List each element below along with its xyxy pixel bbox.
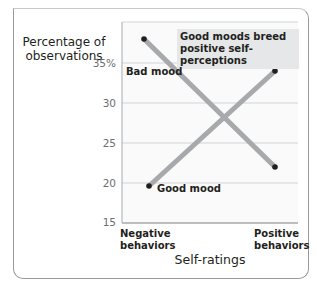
y-tick-25: 25 bbox=[86, 137, 116, 149]
x-category-negative: Negative behaviors bbox=[120, 228, 176, 252]
x-category-negative-line2: behaviors bbox=[120, 240, 176, 252]
x-category-positive-line2: behaviors bbox=[254, 240, 299, 252]
x-category-positive: Positive behaviors bbox=[254, 228, 299, 252]
marker-bad-mood-positive bbox=[272, 164, 278, 170]
marker-good-mood-negative bbox=[146, 183, 152, 189]
x-axis-label: Self-ratings bbox=[122, 252, 298, 267]
y-tick-20: 20 bbox=[86, 177, 116, 189]
chart-annotation: Good moods breed positive self-perceptio… bbox=[177, 29, 299, 69]
marker-bad-mood-negative bbox=[141, 36, 147, 42]
series-label-good-mood: Good mood bbox=[157, 183, 221, 194]
y-tick-30: 30 bbox=[86, 97, 116, 109]
marker-good-mood-positive bbox=[272, 68, 278, 74]
x-category-positive-line1: Positive bbox=[254, 228, 299, 240]
series-label-bad-mood: Bad mood bbox=[126, 66, 182, 77]
y-tick-15: 15 bbox=[86, 216, 116, 228]
x-category-negative-line1: Negative bbox=[120, 228, 176, 240]
y-tick-35: 35% bbox=[86, 57, 116, 69]
